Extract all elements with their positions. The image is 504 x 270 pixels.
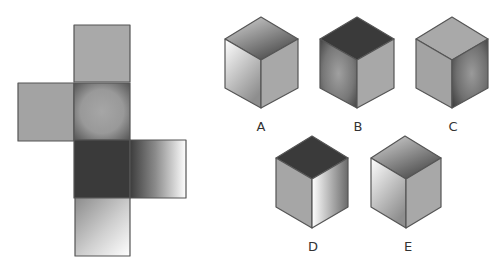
cube-option-a[interactable]: A	[225, 17, 298, 134]
option-label-d: D	[308, 239, 318, 254]
cube-option-b[interactable]: B	[320, 17, 394, 134]
cube-option-e[interactable]: E	[371, 136, 441, 254]
net-face-dark	[74, 140, 130, 198]
option-label-b: B	[354, 119, 363, 134]
cube-option-c[interactable]: C	[416, 17, 488, 134]
net-face-top	[74, 25, 130, 82]
net-face-left	[18, 83, 74, 141]
option-label-c: C	[448, 119, 457, 134]
option-label-e: E	[404, 239, 412, 254]
net-face-right	[130, 140, 186, 198]
option-label-a: A	[257, 119, 266, 134]
puzzle-canvas: A B C D E	[0, 0, 504, 270]
cube-option-d[interactable]: D	[276, 136, 348, 254]
net-face-center	[74, 83, 130, 140]
net-face-bottom	[75, 198, 130, 256]
cube-net	[18, 25, 186, 256]
